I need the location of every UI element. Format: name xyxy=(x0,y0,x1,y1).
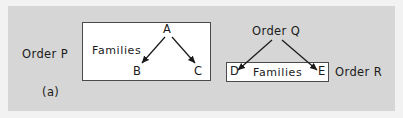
node-c-label: C xyxy=(194,66,202,78)
order-q-label: Order Q xyxy=(252,26,300,38)
arrow-a-to-c xyxy=(172,37,195,63)
families-label-right: Families xyxy=(253,67,302,78)
arrow-a-to-b xyxy=(142,37,165,63)
order-r-label: Order R xyxy=(335,67,382,79)
order-p-label: Order P xyxy=(22,49,68,61)
node-a-label: A xyxy=(163,24,171,36)
node-b-label: B xyxy=(133,66,141,78)
figure-panel: Order P Families A B C Order Q D Familie… xyxy=(0,0,403,118)
figure-caption: (a) xyxy=(42,87,59,99)
node-e-label: E xyxy=(318,66,326,78)
families-label-left: Families xyxy=(92,45,141,56)
node-d-label: D xyxy=(230,66,239,78)
